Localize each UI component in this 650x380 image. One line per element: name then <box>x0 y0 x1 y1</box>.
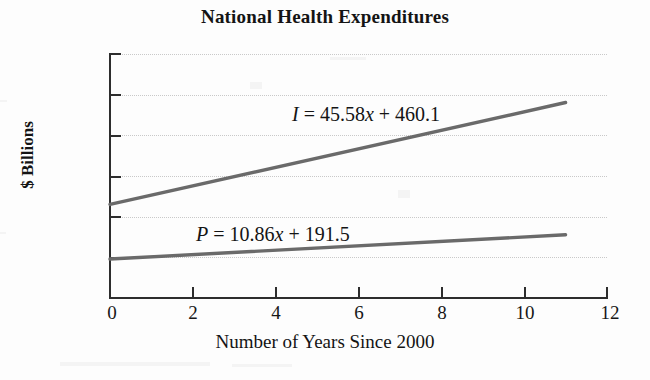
equation-I-body: = 45.58 <box>299 103 365 125</box>
x-tick-label-12: 12 <box>590 303 630 323</box>
scan-artifact <box>0 100 7 102</box>
equation-P-tail: + 191.5 <box>283 223 349 245</box>
chart-title: National Health Expenditures <box>0 6 650 28</box>
x-tick-label-0: 0 <box>92 303 132 323</box>
scan-artifact <box>232 364 292 367</box>
x-tick-6 <box>358 287 360 298</box>
x-tick-8 <box>441 287 443 298</box>
scan-artifact <box>250 82 262 89</box>
x-tick-label-8: 8 <box>422 303 462 323</box>
x-tick-label-10: 10 <box>505 303 545 323</box>
x-tick-4 <box>275 287 277 298</box>
gridline-200 <box>110 257 607 258</box>
y-tick-1200 <box>111 53 121 55</box>
equation-annotation-P: P = 10.86x + 191.5 <box>196 224 350 244</box>
chart-figure: National Health Expenditures 1200 1000 8… <box>0 0 650 380</box>
gridline-1200 <box>110 54 607 55</box>
plot-area <box>110 54 607 298</box>
y-tick-600 <box>111 176 121 178</box>
x-tick-label-2: 2 <box>173 303 213 323</box>
gridline-600 <box>110 176 607 177</box>
y-tick-400 <box>111 216 121 218</box>
x-tick-label-4: 4 <box>256 303 296 323</box>
equation-I-tail: + 460.1 <box>374 103 440 125</box>
gridline-400 <box>110 217 607 218</box>
x-tick-10 <box>524 287 526 298</box>
equation-annotation-I: I = 45.58x + 460.1 <box>292 104 440 124</box>
y-axis-title: $ Billions <box>18 75 38 235</box>
gridline-1000 <box>110 95 607 96</box>
scan-artifact <box>330 57 366 60</box>
scan-artifact <box>60 362 210 366</box>
equation-I-xvar: x <box>365 103 374 125</box>
x-axis-title: Number of Years Since 2000 <box>0 331 650 353</box>
x-tick-2 <box>192 287 194 298</box>
x-tick-12 <box>606 287 608 298</box>
y-tick-1000 <box>111 94 121 96</box>
equation-I-symbol: I <box>292 103 299 125</box>
y-tick-800 <box>111 135 121 137</box>
equation-P-body: = 10.86 <box>208 223 274 245</box>
scan-artifact <box>398 190 410 198</box>
equation-P-symbol: P <box>196 223 208 245</box>
x-tick-label-6: 6 <box>339 303 379 323</box>
scan-artifact <box>0 232 6 234</box>
gridline-800 <box>110 135 607 136</box>
y-tick-200 <box>111 257 121 259</box>
